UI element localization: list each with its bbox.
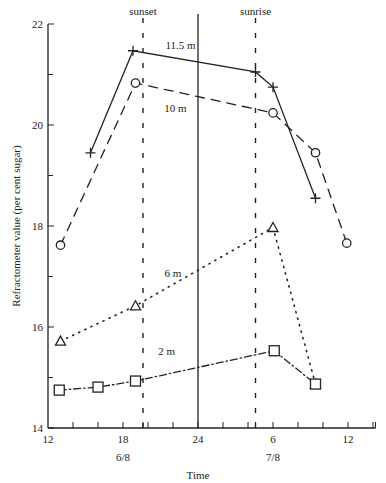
y-axis-title: Refractometer value (per cent sugar) [10,145,23,307]
square-marker [131,376,141,386]
series-group: 11.5 m10 m6 m2 m [54,39,351,395]
sunrise-label: sunrise [240,5,271,17]
series-line-10m [61,83,347,245]
circle-marker [343,239,351,247]
circle-marker [311,149,319,157]
square-marker [311,379,321,389]
triangle-marker [56,336,66,345]
axes: 14161820221218246126/87/8 [32,18,376,463]
x-axis-title: Time [187,469,210,481]
x-tick-label: 18 [118,433,130,445]
series-label: 2 m [158,345,175,357]
date-label: 6/8 [116,451,131,463]
circle-marker [56,241,64,249]
plus-marker [311,193,321,203]
reference-lines: sunsetsunrise [129,5,271,428]
y-tick-label: 18 [32,220,44,232]
square-marker [269,346,279,356]
x-tick-label: 12 [343,433,354,445]
y-tick-label: 22 [32,18,43,30]
series-label: 11.5 m [165,39,196,51]
square-marker [54,385,64,395]
plus-marker [86,148,96,158]
y-tick-label: 20 [32,119,44,131]
series-label: 10 m [164,102,187,114]
refractometer-chart: sunsetsunrise 14161820221218246126/87/8 … [0,0,386,483]
square-marker [93,382,103,392]
circle-marker [269,109,277,117]
triangle-marker [268,223,278,232]
sunset-label: sunset [129,5,157,17]
x-tick-label: 24 [193,433,205,445]
date-label: 7/8 [266,451,281,463]
x-tick-label: 12 [43,433,54,445]
series-line-115m [91,51,316,198]
x-tick-label: 6 [270,433,276,445]
series-line-6m [61,228,316,385]
series-label: 6 m [165,267,182,279]
y-tick-label: 16 [32,321,44,333]
triangle-marker [131,301,141,310]
circle-marker [131,79,139,87]
plus-marker [128,46,138,56]
